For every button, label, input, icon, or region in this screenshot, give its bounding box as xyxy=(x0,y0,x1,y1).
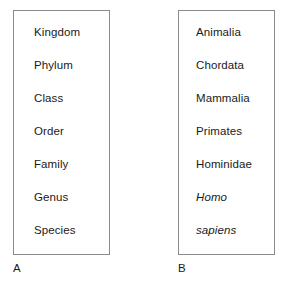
list-item: Primates xyxy=(179,123,291,139)
list-item: Animalia xyxy=(179,24,291,40)
list-item: Class xyxy=(14,90,129,106)
list-item: Order xyxy=(14,123,129,139)
panel-b-rank-list: Animalia Chordata Mammalia Primates Homi… xyxy=(179,11,274,254)
list-item: sapiens xyxy=(179,222,291,238)
list-item: Chordata xyxy=(179,57,291,73)
panel-a-box: Kingdom Phylum Class Order Family Genus … xyxy=(13,10,110,255)
list-item: Phylum xyxy=(14,57,129,73)
taxonomy-figure: Kingdom Phylum Class Order Family Genus … xyxy=(0,0,291,288)
list-item: Family xyxy=(14,156,129,172)
list-item: Mammalia xyxy=(179,90,291,106)
list-item: Kingdom xyxy=(14,24,129,40)
list-item: Genus xyxy=(14,189,129,205)
panel-b-caption: B xyxy=(178,261,186,275)
panel-a-caption: A xyxy=(13,261,21,275)
panel-b-box: Animalia Chordata Mammalia Primates Homi… xyxy=(178,10,275,255)
list-item: Species xyxy=(14,222,129,238)
panel-a-rank-list: Kingdom Phylum Class Order Family Genus … xyxy=(14,11,109,254)
list-item: Homo xyxy=(179,189,291,205)
list-item: Hominidae xyxy=(179,156,291,172)
